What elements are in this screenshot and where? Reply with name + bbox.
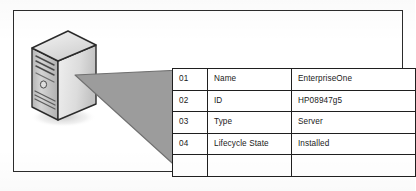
table-row[interactable]: 01 Name EnterpriseOne (173, 69, 416, 91)
row-attribute: ID (208, 90, 292, 112)
row-attribute: Type (208, 112, 292, 134)
table-row-empty[interactable] (173, 155, 416, 177)
row-value: Server (292, 112, 416, 134)
callout-wedge (70, 70, 185, 175)
attribute-table: 01 Name EnterpriseOne 02 ID HP08947g5 03… (172, 68, 416, 177)
row-value: Installed (292, 133, 416, 155)
row-value: EnterpriseOne (292, 69, 416, 91)
row-value: HP08947g5 (292, 90, 416, 112)
table-row[interactable]: 03 Type Server (173, 112, 416, 134)
row-value (292, 155, 416, 177)
row-index: 01 (173, 69, 208, 91)
row-attribute: Name (208, 69, 292, 91)
row-index: 04 (173, 133, 208, 155)
server-power-button (40, 81, 46, 88)
attribute-table-body: 01 Name EnterpriseOne 02 ID HP08947g5 03… (173, 69, 416, 177)
row-attribute (208, 155, 292, 177)
row-index: 03 (173, 112, 208, 134)
table-row[interactable]: 02 ID HP08947g5 (173, 90, 416, 112)
row-index (173, 155, 208, 177)
row-attribute: Lifecycle State (208, 133, 292, 155)
row-index: 02 (173, 90, 208, 112)
table-row[interactable]: 04 Lifecycle State Installed (173, 133, 416, 155)
